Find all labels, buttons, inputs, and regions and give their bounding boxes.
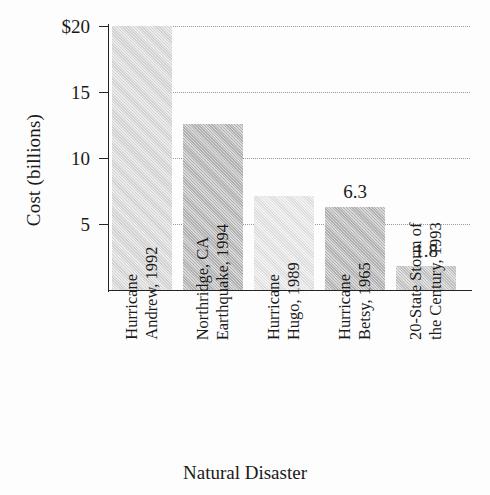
y-axis-title-text: Cost (billions) [23,114,45,226]
category-label-line: Earthquake, 1994 [213,224,233,340]
y-axis-line [108,24,109,292]
category-label-rotated: HurricaneBetsy, 1965 [335,262,375,340]
x-axis-category-label: HurricaneAndrew, 1992 [112,296,172,446]
category-label-line: Hurricane [122,247,142,340]
y-axis-tick-label: $20 [28,17,90,36]
category-label-line: Andrew, 1992 [142,247,162,340]
category-label-line: Hurricane [264,262,284,340]
category-label-rotated: 20-State Storm ofthe Century, 1993 [406,223,446,341]
bar-chart-figure: Cost (billions) $2015105 6.31.8 Hurrican… [0,0,490,495]
bar-value-label: 6.3 [325,182,385,201]
y-axis-tick-label: 10 [28,149,90,168]
category-label-line: 20-State Storm of [406,223,426,341]
x-axis-category-label: Northridge, CAEarthquake, 1994 [183,296,243,446]
x-axis-category-label: HurricaneBetsy, 1965 [325,296,385,446]
y-axis-tick-label: 5 [28,215,90,234]
category-label-rotated: HurricaneHugo, 1989 [264,262,304,340]
category-label-line: Hugo, 1989 [284,262,304,340]
x-axis-title: Natural Disaster [0,462,490,484]
category-label-line: Hurricane [335,262,355,340]
category-label-line: the Century, 1993 [426,223,446,341]
category-label-rotated: HurricaneAndrew, 1992 [122,247,162,340]
x-axis-category-label: 20-State Storm ofthe Century, 1993 [396,296,456,446]
y-axis-tick-label: 15 [28,83,90,102]
category-label-line: Betsy, 1965 [355,262,375,340]
category-label-line: Northridge, CA [193,224,213,340]
category-label-rotated: Northridge, CAEarthquake, 1994 [193,224,233,340]
x-axis-category-label: HurricaneHugo, 1989 [254,296,314,446]
